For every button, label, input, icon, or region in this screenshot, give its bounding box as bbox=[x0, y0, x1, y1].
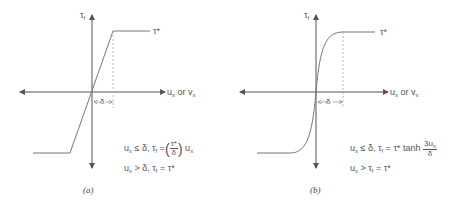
equation-2-b: ux > τf = τ* bbox=[350, 164, 391, 174]
caption-b: (b) bbox=[310, 185, 321, 195]
delta-label-b: δ bbox=[326, 98, 330, 106]
x-axis-label-b: ux or vx bbox=[390, 88, 419, 98]
plateau-label-b: τ* bbox=[380, 28, 387, 37]
plateau-label-a: τ* bbox=[153, 27, 160, 36]
equation-2-a: ux > δ, τf = τ* bbox=[124, 164, 175, 174]
x-axis-label-a: ux or vx bbox=[167, 88, 196, 98]
y-axis-label-a: τf bbox=[80, 11, 85, 21]
equation-1-b: ux ≤ δ, τf = τ* tanh 3uxδ bbox=[350, 140, 437, 158]
caption-a: (a) bbox=[83, 185, 94, 195]
y-axis-label-b: τf bbox=[304, 11, 309, 21]
diagram-canvas bbox=[0, 0, 458, 205]
equation-1-a: ux ≤ δ, τf =(τ*δ) ux bbox=[124, 140, 193, 157]
delta-label-a: δ bbox=[100, 98, 104, 106]
